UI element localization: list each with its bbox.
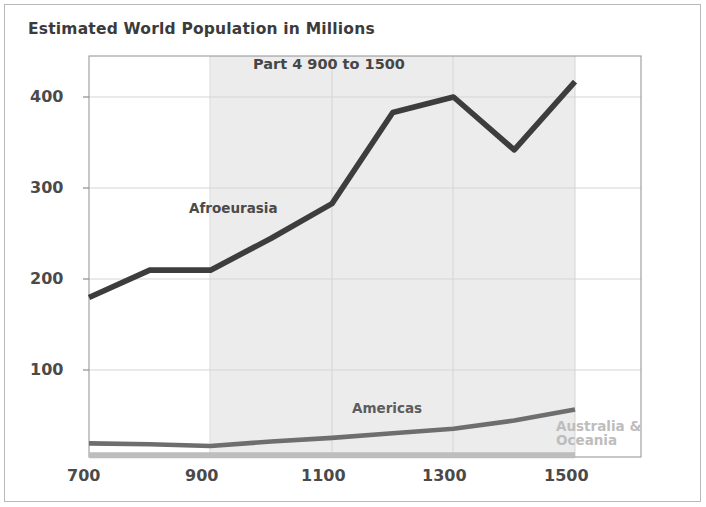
chart-figure: Estimated World Population in Millions xyxy=(0,0,706,507)
y-axis-label-100: 100 xyxy=(30,360,63,379)
x-axis-label-1300: 1300 xyxy=(422,466,467,485)
y-axis-ticks xyxy=(83,97,89,370)
x-axis-label-1100: 1100 xyxy=(301,466,346,485)
series-label-australia-line2: Oceania xyxy=(556,432,617,448)
chart-subtitle: Part 4 900 to 1500 xyxy=(253,56,405,72)
series-label-americas: Americas xyxy=(352,400,422,416)
y-axis-label-400: 400 xyxy=(30,87,63,106)
y-axis-label-200: 200 xyxy=(30,269,63,288)
x-axis-label-1500: 1500 xyxy=(544,466,589,485)
series-label-afroeurasia: Afroeurasia xyxy=(189,200,278,216)
x-axis-label-900: 900 xyxy=(185,466,218,485)
y-axis-label-300: 300 xyxy=(30,178,63,197)
series-label-australia-oceania: Australia & Oceania xyxy=(556,419,641,447)
x-axis-label-700: 700 xyxy=(67,466,100,485)
